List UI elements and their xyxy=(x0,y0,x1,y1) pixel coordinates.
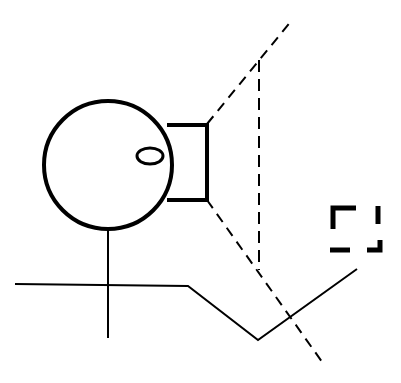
view-ray-lower xyxy=(207,200,325,366)
ground-path xyxy=(15,269,357,340)
diagram-canvas xyxy=(0,0,401,383)
view-ray-upper xyxy=(207,20,292,124)
target-frame-icon xyxy=(330,206,380,250)
